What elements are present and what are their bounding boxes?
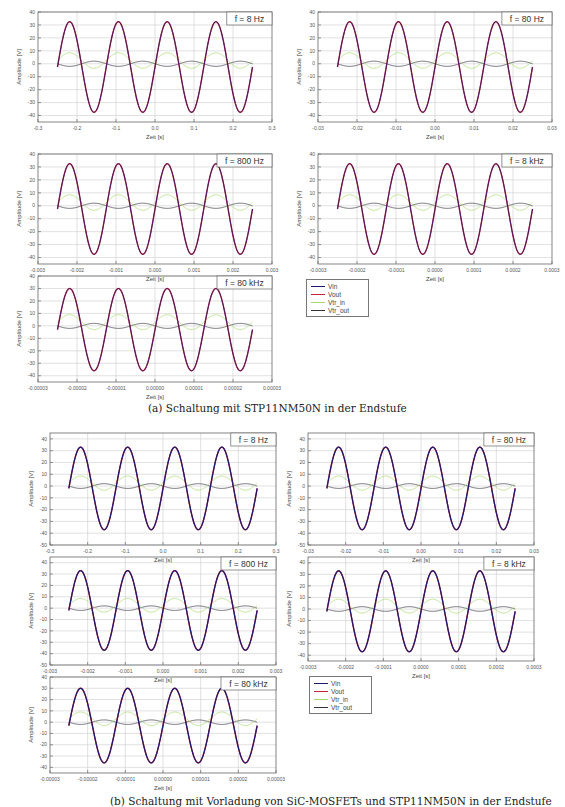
frequency-label-text: f = 80 kHz bbox=[225, 278, 264, 288]
x-tick-label: 0.01 bbox=[469, 125, 479, 131]
y-tick-label: 40 bbox=[309, 151, 315, 157]
y-axis-label: Amplitude [V] bbox=[28, 593, 34, 629]
y-tick-label: -20 bbox=[28, 86, 35, 92]
x-tick-label: 0.3 bbox=[269, 125, 276, 131]
chart-panel-a5: -0.00003-0.00002-0.000010.000000.000010.… bbox=[8, 272, 282, 404]
legend-swatch bbox=[311, 310, 325, 311]
y-tick-label: -50 bbox=[40, 662, 47, 668]
legend-item-vin: Vin bbox=[314, 679, 366, 687]
x-tick-label: -0.3 bbox=[34, 125, 43, 131]
x-tick-label: -0.0002 bbox=[349, 267, 366, 273]
x-tick-label: 0.00003 bbox=[263, 385, 281, 391]
y-tick-label: 20 bbox=[41, 696, 47, 702]
chart-svg: -0.003-0.002-0.0010.0000.0010.0020.00340… bbox=[8, 150, 282, 286]
y-tick-label: 20 bbox=[309, 177, 315, 183]
y-tick-label: 10 bbox=[29, 310, 35, 316]
y-tick-label: -30 bbox=[40, 639, 47, 645]
legend-item-vin: Vin bbox=[311, 282, 363, 290]
x-tick-label: -0.1 bbox=[112, 125, 121, 131]
legend-swatch bbox=[311, 302, 325, 303]
legend-a: Vin Vout Vtr_in Vtr_out bbox=[306, 279, 369, 317]
y-tick-label: 10 bbox=[29, 190, 35, 196]
x-tick-label: 0.0 bbox=[152, 125, 159, 131]
y-tick-label: 40 bbox=[29, 9, 35, 15]
frequency-label: f = 80 kHz bbox=[217, 276, 272, 289]
x-tick-label: 0.0000 bbox=[413, 664, 429, 670]
x-tick-label: -0.01 bbox=[390, 125, 402, 131]
y-tick-label: -10 bbox=[298, 495, 305, 501]
y-tick-label: 10 bbox=[41, 471, 47, 477]
x-tick-label: 0.00 bbox=[430, 125, 440, 131]
y-tick-label: -40 bbox=[28, 372, 35, 378]
y-tick-label: 20 bbox=[41, 459, 47, 465]
y-tick-label: 40 bbox=[299, 436, 305, 442]
chart-svg: -0.3-0.2-0.10.00.10.20.3403020100-10-20-… bbox=[20, 429, 286, 567]
y-tick-label: 0 bbox=[312, 202, 315, 208]
y-axis-label: Amplitude [V] bbox=[16, 49, 22, 85]
frequency-label: f = 800 Hz bbox=[217, 154, 272, 167]
x-tick-label: 0.0001 bbox=[466, 267, 482, 273]
frequency-label-text: f = 80 Hz bbox=[510, 14, 544, 24]
frequency-label-text: f = 800 Hz bbox=[225, 156, 264, 166]
chart-svg: -0.00003-0.00002-0.000010.000000.000010.… bbox=[8, 272, 282, 404]
y-tick-label: -10 bbox=[28, 73, 35, 79]
x-axis-label: Zeit [s] bbox=[146, 134, 164, 140]
frequency-label: f = 80 kHz bbox=[221, 677, 276, 690]
y-tick-label: 30 bbox=[41, 571, 47, 577]
x-axis-label: Zeit [s] bbox=[426, 134, 444, 140]
y-tick-label: -30 bbox=[298, 518, 305, 524]
chart-svg: -0.0003-0.0002-0.00010.00000.00010.00020… bbox=[288, 150, 562, 286]
y-tick-label: -40 bbox=[28, 254, 35, 260]
y-tick-label: 30 bbox=[41, 447, 47, 453]
y-tick-label: 0 bbox=[32, 60, 35, 66]
y-tick-label: 20 bbox=[29, 298, 35, 304]
chart-svg: -0.0003-0.0002-0.00010.00000.00010.00020… bbox=[278, 553, 544, 683]
frequency-label: f = 8 Hz bbox=[231, 433, 276, 446]
y-tick-label: 0 bbox=[302, 483, 305, 489]
y-tick-label: -20 bbox=[298, 506, 305, 512]
y-tick-label: -20 bbox=[28, 228, 35, 234]
y-tick-label: -10 bbox=[40, 616, 47, 622]
y-tick-label: -20 bbox=[298, 629, 305, 635]
y-tick-label: -40 bbox=[40, 650, 47, 656]
y-axis-label: Amplitude [V] bbox=[16, 311, 22, 347]
x-tick-label: -0.03 bbox=[312, 125, 324, 131]
y-tick-label: 20 bbox=[29, 35, 35, 41]
legend-item-vtr-out: Vtr_out bbox=[314, 703, 366, 711]
legend-swatch bbox=[311, 286, 325, 287]
y-tick-label: 30 bbox=[299, 447, 305, 453]
y-axis-label: Amplitude [V] bbox=[28, 707, 34, 743]
frequency-label-text: f = 80 Hz bbox=[492, 435, 526, 445]
y-tick-label: -20 bbox=[28, 348, 35, 354]
chart-svg: -0.03-0.02-0.010.000.010.020.03403020100… bbox=[278, 429, 544, 567]
y-tick-label: 40 bbox=[309, 9, 315, 15]
y-tick-label: -20 bbox=[308, 86, 315, 92]
y-tick-label: -40 bbox=[40, 764, 47, 770]
y-tick-label: 30 bbox=[29, 285, 35, 291]
y-tick-label: 0 bbox=[312, 60, 315, 66]
frequency-label-text: f = 80 kHz bbox=[229, 679, 268, 689]
chart-panel-b5: -0.00003-0.00002-0.000010.000000.000010.… bbox=[20, 673, 286, 795]
y-tick-label: -10 bbox=[308, 73, 315, 79]
x-tick-label: 0.0003 bbox=[526, 664, 542, 670]
frequency-label: f = 8 kHz bbox=[484, 557, 534, 570]
x-tick-label: 0.00001 bbox=[185, 385, 203, 391]
frequency-label-text: f = 800 Hz bbox=[229, 559, 268, 569]
legend-swatch bbox=[314, 683, 328, 684]
y-tick-label: 40 bbox=[41, 436, 47, 442]
y-tick-label: 0 bbox=[44, 483, 47, 489]
x-tick-label: 0.2 bbox=[230, 125, 237, 131]
y-tick-label: 30 bbox=[299, 571, 305, 577]
x-axis-label: Zeit [s] bbox=[426, 276, 444, 282]
frequency-label-text: f = 8 Hz bbox=[235, 14, 265, 24]
x-tick-label: 0.0000 bbox=[427, 267, 443, 273]
y-axis-label: Amplitude [V] bbox=[296, 191, 302, 227]
x-tick-label: -0.0003 bbox=[300, 664, 317, 670]
x-tick-label: -0.00003 bbox=[28, 385, 48, 391]
y-tick-label: -40 bbox=[308, 254, 315, 260]
y-tick-label: -30 bbox=[28, 99, 35, 105]
y-tick-label: 10 bbox=[309, 48, 315, 54]
y-tick-label: -30 bbox=[40, 518, 47, 524]
y-tick-label: 20 bbox=[41, 582, 47, 588]
x-axis-label: Zeit [s] bbox=[154, 785, 172, 791]
